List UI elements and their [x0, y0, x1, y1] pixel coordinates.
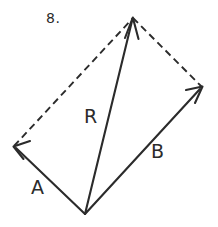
dashed-line-resultant-to-b [133, 18, 202, 87]
vector-b-shaft [85, 89, 200, 214]
vector-a-label: A [31, 178, 44, 197]
vector-a-shaft [16, 148, 85, 214]
dashed-line-a-to-resultant [14, 18, 133, 146]
vector-diagram-figure: 8. A B R [0, 0, 218, 227]
figure-number-label: 8. [46, 11, 60, 25]
vector-b-label: B [151, 142, 164, 161]
vector-r-label: R [84, 107, 97, 126]
